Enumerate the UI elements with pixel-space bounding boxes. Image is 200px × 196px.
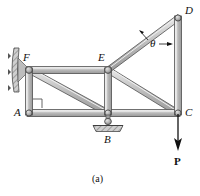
angle-label-theta: θ: [150, 38, 155, 49]
load-arrow-P: [174, 114, 182, 151]
joint-A: [26, 110, 32, 116]
truss-figure: A B C D E F θ P (a): [0, 0, 200, 196]
figure-caption: (a): [92, 174, 103, 184]
load-label-P: P: [174, 156, 181, 167]
member-B-E: [105, 68, 112, 115]
member-C-D: [175, 16, 182, 115]
joint-label-E: E: [98, 52, 105, 63]
joint-F: [26, 67, 33, 74]
joint-E: [105, 67, 112, 74]
member-A-F: [26, 68, 33, 115]
joint-label-F: F: [23, 52, 30, 63]
truss-diagram-svg: [0, 0, 200, 196]
joint-label-A: A: [14, 107, 21, 118]
pin-support-B: [93, 115, 123, 132]
joint-D: [175, 15, 181, 21]
member-A-C: [27, 110, 180, 117]
joint-label-B: B: [104, 134, 111, 145]
member-E-C: [108, 67, 178, 117]
member-F-B: [29, 67, 108, 117]
joint-label-C: C: [185, 107, 192, 118]
joint-label-D: D: [185, 5, 193, 16]
right-angle-marker: [33, 99, 42, 108]
member-F-E: [27, 67, 110, 74]
